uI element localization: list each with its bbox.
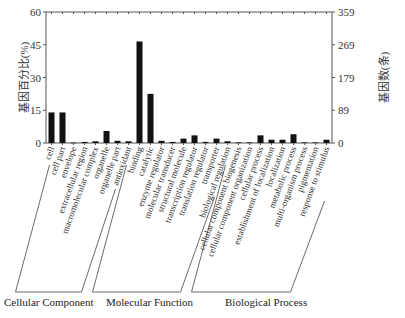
y-tick-label: 45 [30,39,42,51]
bar [269,140,275,143]
bar [137,41,143,143]
y-tick-label-right: 269 [338,39,355,51]
bar [170,142,176,143]
y-tick-label: 30 [30,72,42,84]
bar [115,141,121,143]
y-tick-label: 15 [30,104,42,116]
bar [236,142,242,143]
bar [214,139,220,143]
bar [126,141,132,143]
bar [324,140,330,143]
bar [291,134,297,143]
y-tick-label-right: 179 [338,72,355,84]
bar [181,139,187,143]
bar [60,112,66,143]
y-axis-label: 基因百分比(%) [18,41,31,113]
group-label: Cellular Component [4,296,94,308]
y-tick-label-right: 0 [338,137,344,149]
bar [280,140,286,143]
bar [203,142,209,143]
y-tick-label-right: 359 [338,6,355,18]
bar [148,94,154,143]
bar [258,135,264,143]
y-tick-label: 0 [36,137,42,149]
y-axis-label-right: 基因数(条) [377,52,391,104]
bar [225,141,231,143]
bar [93,141,99,143]
bar [302,142,308,143]
group-label: Molecular Function [106,296,194,308]
group-label: Biological Process [225,296,307,308]
y-tick-label-right: 89 [338,104,350,116]
bar [247,142,253,143]
bar [192,135,198,143]
go-annotation-bar-chart: 015304560089179269359基因百分比(%)基因数(条)cellc… [0,0,405,318]
bar [159,141,165,143]
y-tick-label: 60 [30,6,42,18]
bar [313,142,319,143]
bar [49,112,55,143]
bar [82,142,88,143]
bar [104,131,110,143]
